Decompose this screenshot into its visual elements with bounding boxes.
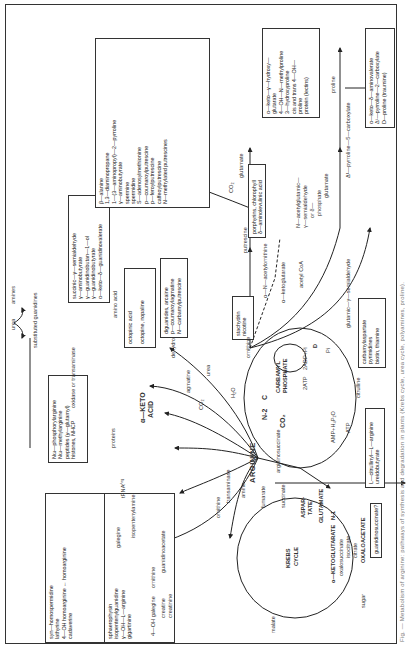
isocitrate-label: isocitrate	[345, 536, 352, 558]
creatine-label: creatine	[160, 598, 167, 618]
enzyme-d-label: D	[312, 344, 319, 348]
or-delta-label: or δ—	[309, 203, 316, 218]
pi-label: Pi	[325, 348, 332, 353]
amino-acid-label: amino acid	[112, 291, 119, 318]
urea-label: urea	[10, 319, 17, 330]
carbamyl-phosphate-label-1: CARBAMYL	[275, 361, 282, 393]
c-label: C	[262, 395, 269, 400]
guanidinosuccinate-box: guanidinosuccinate?	[370, 503, 382, 558]
ornithine-label-2: ornithine	[215, 497, 222, 518]
box-line: δ—aminolevulinic acid	[257, 168, 263, 234]
pyrroline-carboxylate-label: Δ¹—pyrroline—5—carboxylate	[345, 102, 352, 178]
acetyl-coa-label: acetyl CoA	[298, 261, 305, 288]
proline-products-box: α—keto—δ—aminovalerate Δ¹—pyrroline—2—ca…	[365, 28, 395, 128]
glutamate-label-1: glutamate	[238, 153, 245, 178]
atp2-label: 2ATP	[302, 376, 309, 390]
krebs-cycle-label-2: CYCLE	[293, 547, 300, 566]
guanidino-acids-box: succinic—γ—semialdehyde γ—aminobutyrate …	[68, 195, 110, 303]
n1-label: N-1	[330, 511, 337, 520]
box-line: protein (lectins)	[303, 32, 309, 114]
rotated-diagram-canvas: urea amines substituted guanidines syn—h…	[0, 0, 413, 648]
agmatine-label: agmatine	[185, 370, 192, 393]
box-line: nicotine	[241, 300, 247, 336]
polyamines-box: β—alanine 1,3—diaminopropane 1—(3—aminop…	[95, 38, 210, 208]
substituted-guanidines-label: substituted guanidines	[32, 292, 39, 348]
box-line: cadaverine	[67, 497, 73, 639]
glutamate-label-3: GLUTAMATE	[318, 489, 325, 523]
adp-pi-label: 2ADP+Pi	[302, 347, 309, 370]
box-line: N—carbamylputrescine	[176, 262, 182, 334]
citrulline-label: citrulline	[355, 377, 362, 398]
co2-label-3: CO₂	[280, 414, 287, 428]
alpha-ketoglutarate-bold-label: α—KETOGLUTARATE	[330, 525, 337, 583]
keto-acid-label-1: α—KETO	[140, 392, 147, 423]
malate-label: malate	[270, 616, 277, 633]
urea-label-2: urea	[205, 365, 212, 376]
ornithine-label: ornithine	[245, 337, 252, 358]
stachydrin-box: stachydrin nicotine	[232, 296, 254, 340]
alpha-ketoglutarate-label: α—ketoglutarate	[280, 262, 287, 303]
sugar-label: sugar	[360, 594, 367, 608]
krebs-cycle-label-1: KREBS	[285, 548, 292, 568]
oh-galegine-label: 4—OH galegine	[150, 596, 157, 636]
box-line: guanidinosuccinate?	[373, 507, 379, 554]
box-line: N—methylated putrescines	[162, 42, 168, 204]
h2o-label: H₂O	[230, 387, 237, 398]
oxidase-transaminase-label: oxidase or transaminase	[70, 347, 77, 408]
agmatine-products-box: diguanides, arcaine p—coumaroylagmatine …	[160, 258, 188, 338]
phosphate-label: phosphate	[316, 190, 323, 216]
isopentenylamine-label: isopentenylamine	[130, 494, 137, 538]
n-acetylglutamic-label: N—acetylglutamic—	[295, 177, 302, 228]
co2-label-2: CO₂	[228, 182, 235, 193]
glutamic-semialdehyde-label: glutamic—γ—semialdehyde	[345, 259, 352, 328]
co2-label-1: CO₂	[198, 399, 205, 410]
argininosuccinate-label: argininosuccinate	[275, 429, 282, 473]
arginine-node: ARGININE	[250, 442, 257, 483]
transaminase-label: transaminase	[225, 469, 232, 503]
box-line: D—proline (traumine)	[381, 32, 387, 124]
box-line: α—keto—δ—guanidinovalerate	[97, 199, 103, 299]
amines-label: amines	[10, 286, 17, 304]
n2-label: N-2	[262, 409, 269, 420]
carbamyl-phosphate-label-2: PHOSPHATE	[282, 359, 289, 393]
figure-caption: Fig. — Metabolism of arginine: pathways …	[399, 6, 405, 642]
arginine-derivatives-box: Nω—phosphorylarginine Nω—methylarginine …	[48, 375, 88, 463]
alpha-n-acetylornithine-label: α—N—acetylornithine	[262, 243, 269, 298]
aspartate-label-1: ASPAR-	[300, 497, 307, 518]
aspartate-label-2: TATE	[307, 501, 314, 515]
box-line: biotin, thiamine	[374, 302, 380, 364]
amp-label: AMP+H₄P₂O	[330, 411, 337, 443]
trna-label: tRNAᴬʳᵍ	[120, 479, 127, 498]
citrullinyl-box: L—citrullinyl—L—arginine ureidobutyrate	[365, 408, 385, 488]
atp-label: ATP	[345, 423, 352, 433]
proline-label: proline	[330, 76, 337, 93]
box-line: octopinic acid	[127, 272, 133, 344]
porphyrins-box: porphyrins, chlorophyll δ—aminolevulinic…	[248, 164, 266, 238]
guanidinoacetate-label: guanidinoacetate	[160, 530, 167, 573]
creatinine-label: creatinine	[167, 594, 174, 618]
galegine-label: galegine	[115, 527, 122, 548]
homoarginine-box: syn—homospermidine lathyrine 4—OH homoar…	[45, 493, 105, 643]
keto-acid-label-2: ACID	[148, 401, 155, 418]
oxaloacetate-label: OXALOACETATE	[360, 518, 367, 563]
citrate-label: citrate	[352, 543, 359, 558]
hydroxyproline-box: α—keto—γ—hydroxy— glutarate 4—OH—N—methy…	[262, 28, 320, 118]
amine-label: amine	[240, 483, 247, 498]
gamma-semialdehyde-label: γ—semialdehyde	[302, 185, 309, 228]
figure-frame: urea amines substituted guanidines syn—h…	[0, 0, 413, 648]
ornithine-label-3: ornithine	[150, 567, 157, 588]
carbamylaspartate-box: carbamylaspartate pyrimidines biotin, th…	[358, 298, 386, 368]
oxalosuccinate-label: oxalosuccinate	[338, 539, 345, 576]
box-line: octopine, nopaline	[139, 272, 145, 344]
octopine-box: octopinic acid octopine, nopaline	[124, 268, 156, 348]
succinate-label: succinate	[280, 484, 287, 508]
box-line: ureidobutyrate	[374, 412, 380, 484]
glutamate-label-2: glutamate	[323, 173, 330, 198]
proteins-label: proteins	[110, 428, 117, 448]
fumarate-label: fumarate	[260, 486, 267, 508]
